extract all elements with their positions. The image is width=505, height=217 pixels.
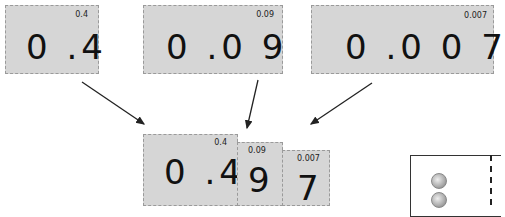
dashed-divider	[490, 155, 492, 205]
coin-icon	[431, 192, 447, 208]
stacked-card-hundredths: 0.09 9	[237, 142, 283, 206]
card-label: 0.4	[214, 138, 227, 147]
card-digits: 9	[248, 163, 274, 197]
arrow-icon	[311, 83, 372, 124]
stacked-card-tenths: 0.4 0 .4	[143, 134, 238, 206]
card-label: 0.007	[297, 154, 320, 163]
stacked-card-thousandths: 0.007 7	[282, 150, 330, 206]
card-digits: 7	[297, 171, 323, 205]
arrow-icon	[247, 80, 258, 128]
card-digits: 0 .4	[164, 155, 245, 189]
coin-box	[410, 155, 501, 217]
arrow-icon	[82, 82, 144, 124]
coin-icon	[431, 173, 447, 189]
card-label: 0.09	[248, 146, 266, 155]
